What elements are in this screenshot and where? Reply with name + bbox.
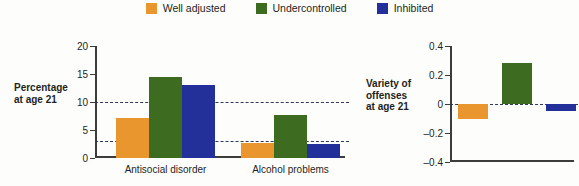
legend-label-well-adjusted: Well adjusted <box>163 2 226 14</box>
x-category-label: Alcohol problems <box>252 164 329 175</box>
y-axis-title-percentage: Percentage at age 21 <box>14 82 84 105</box>
x-category-label: Antisocial disorder <box>125 164 207 175</box>
chart-variety-of-offenses-at-age-21: Variety of offenses at age 21 –0.4–0.200… <box>330 30 579 186</box>
bar-group-left <box>95 46 345 158</box>
y-tick-label: 20 <box>77 41 88 52</box>
bar-well-adjusted <box>241 143 274 158</box>
y-tick-label: –0.4 <box>424 157 443 168</box>
legend-swatch-undercontrolled <box>256 3 267 14</box>
bar-group-right <box>450 46 574 162</box>
y-tick-label: 10 <box>77 97 88 108</box>
bar-inhibited <box>546 104 576 111</box>
bar-undercontrolled <box>274 115 307 158</box>
bar-well-adjusted <box>116 118 149 158</box>
y-tick-mark <box>445 162 450 163</box>
chart-percentage-at-age-21: Percentage at age 21 05101520 Antisocial… <box>0 30 350 186</box>
y-tick-mark <box>90 158 95 159</box>
legend-label-undercontrolled: Undercontrolled <box>273 2 347 14</box>
y-tick-label: 0 <box>82 153 88 164</box>
bar-undercontrolled <box>149 77 182 158</box>
legend-item-inhibited: Inhibited <box>377 2 434 14</box>
y-tick-label: 0.4 <box>429 41 443 52</box>
y-axis-title-variety: Variety of offenses at age 21 <box>366 78 432 113</box>
y-tick-label: 15 <box>77 69 88 80</box>
legend-swatch-well-adjusted <box>146 3 157 14</box>
y-tick-label: –0.2 <box>424 128 443 139</box>
y-tick-label: 5 <box>82 125 88 136</box>
plot-area-right: –0.4–0.200.20.4 <box>450 46 574 162</box>
y-tick-label: 0.2 <box>429 70 443 81</box>
chart-legend: Well adjusted Undercontrolled Inhibited <box>0 2 579 14</box>
legend-label-inhibited: Inhibited <box>394 2 434 14</box>
y-tick-label: 0 <box>437 99 443 110</box>
plot-area-left: 05101520 <box>95 46 345 158</box>
legend-item-well-adjusted: Well adjusted <box>146 2 226 14</box>
legend-swatch-inhibited <box>377 3 388 14</box>
bar-well-adjusted <box>458 104 488 119</box>
bar-undercontrolled <box>502 63 532 104</box>
legend-item-undercontrolled: Undercontrolled <box>256 2 347 14</box>
bar-inhibited <box>182 85 215 158</box>
